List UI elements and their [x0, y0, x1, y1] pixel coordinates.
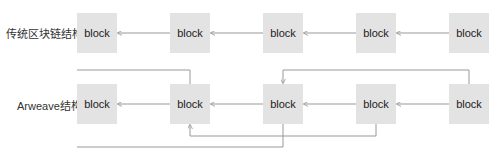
- recall-link-5-to-3: [283, 70, 469, 84]
- bottom-block-2: block: [170, 84, 210, 124]
- top-block-4: block: [356, 13, 396, 53]
- top-block-2: block: [170, 13, 210, 53]
- bottom-block-5: block: [449, 84, 489, 124]
- top-block-3: block: [263, 13, 303, 53]
- connectors: [0, 0, 497, 157]
- top-block-5: block: [449, 13, 489, 53]
- top-block-1: block: [77, 13, 117, 53]
- bottom-block-1: block: [77, 84, 117, 124]
- recall-link-into-block2-top: [77, 70, 190, 84]
- bottom-block-3: block: [263, 84, 303, 124]
- bottom-block-4: block: [356, 84, 396, 124]
